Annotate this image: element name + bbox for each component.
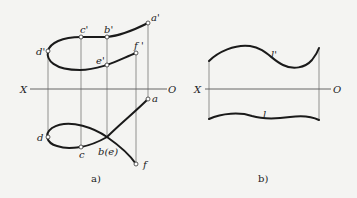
axis-label-o-b: O [333, 84, 341, 95]
axis-label-x-b: X [193, 84, 202, 95]
point-d-prime [46, 49, 50, 53]
axis-label-o-a: O [168, 84, 176, 95]
diagram-canvas: X O a' b' c' d' e' f ' a d c [0, 0, 357, 198]
label-c: c [79, 149, 85, 160]
point-f [134, 162, 138, 166]
label-b-prime: b' [104, 24, 113, 35]
label-f-prime: f ' [133, 40, 144, 51]
point-d [46, 135, 50, 139]
figure-b: X O l' l b) [193, 46, 341, 184]
point-b-prime [105, 35, 109, 39]
point-a [146, 97, 150, 101]
caption-b: b) [258, 173, 268, 184]
label-e-prime: e' [96, 55, 105, 66]
label-l-prime: l' [271, 49, 277, 60]
curve-l-prime [209, 46, 319, 68]
label-b-e: b(e) [98, 146, 118, 157]
label-l: l [263, 109, 266, 120]
point-a-prime [146, 21, 150, 25]
label-c-prime: c' [80, 24, 88, 35]
point-e-prime [105, 63, 109, 67]
axis-label-x-a: X [19, 84, 28, 95]
label-f: f [142, 159, 149, 170]
point-f-prime [134, 51, 138, 55]
label-a: a [152, 93, 158, 104]
label-d: d [37, 132, 43, 143]
point-c-prime [79, 35, 83, 39]
label-d-prime: d' [36, 46, 45, 57]
caption-a: a) [91, 173, 101, 184]
label-a-prime: a' [151, 12, 160, 23]
figure-a: X O a' b' c' d' e' f ' a d c [19, 12, 176, 184]
